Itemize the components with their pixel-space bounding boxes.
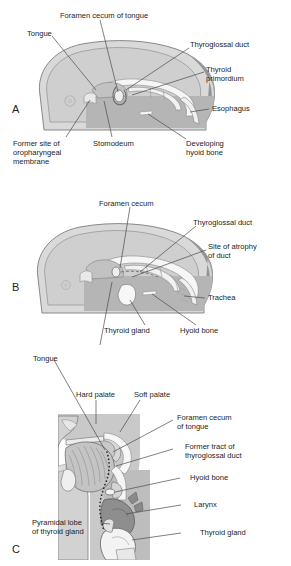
label-pyramidal-lobe-c-line2: of thyroid gland [32, 528, 84, 537]
label-foramen-cecum-c-line2: of tongue [177, 423, 209, 432]
label-developing-hyoid-a-line2: hyoid bone [186, 149, 223, 158]
label-site-of-atrophy-b-line2: of duct [208, 252, 231, 261]
panel-b-illustration [37, 207, 218, 345]
panel-letter-b: B [12, 281, 19, 293]
label-tongue-a: Tongue [27, 30, 52, 39]
label-trachea-b: Trachea [208, 294, 235, 303]
otic-vesicle-center [68, 99, 73, 104]
label-hyoid-bone-b: Hyoid bone [180, 327, 218, 336]
label-foramen-cecum-of-tongue-a: Foramen cecum of tongue [60, 12, 148, 21]
label-tongue-c: Tongue [33, 355, 58, 364]
label-stomodeum-a: Stomodeum [93, 140, 134, 149]
label-soft-palate-c: Soft palate [134, 391, 170, 400]
label-hard-palate-c: Hard palate [76, 391, 115, 400]
hyoid-bone-b [143, 291, 156, 295]
developing-hyoid-bone [140, 111, 152, 115]
label-hyoid-bone-c: Hyoid bone [190, 474, 228, 483]
label-former-tract-c-line2: thyroglossal duct [185, 452, 242, 461]
oral-cavity-b [80, 271, 92, 283]
label-larynx-c: Larynx [194, 501, 217, 510]
panel-letter-c: C [12, 543, 20, 555]
sublingual-gland [61, 469, 76, 491]
foramen-cecum-b [112, 267, 120, 277]
thyroid-gland-b [118, 284, 136, 305]
label-thyroid-gland-b: Thyroid gland [104, 327, 150, 336]
label-thyroid-gland-c: Thyroid gland [200, 529, 246, 538]
ear-marker-center-b [64, 283, 68, 287]
label-thyroid-primordium-a-line2: primordium [206, 75, 244, 84]
figure-canvas [0, 0, 291, 566]
label-foramen-cecum-b: Foramen cecum [99, 200, 154, 209]
hyoid-bone-c [106, 489, 115, 495]
label-esophagus-a: Esophagus [212, 105, 250, 114]
label-former-site-a-line3: membrane [13, 158, 49, 167]
label-thyroglossal-duct-b: Thyroglossal duct [193, 219, 252, 228]
embryology-thyroid-development-figure: Foramen cecum of tongue Tongue Thyroglos… [0, 0, 291, 566]
label-thyroglossal-duct-a: Thyroglossal duct [190, 41, 249, 50]
thyroglossal-duct-lumen [115, 90, 124, 102]
trachea-c [116, 548, 136, 560]
panel-letter-a: A [12, 103, 19, 115]
panel-a-illustration [39, 20, 220, 139]
